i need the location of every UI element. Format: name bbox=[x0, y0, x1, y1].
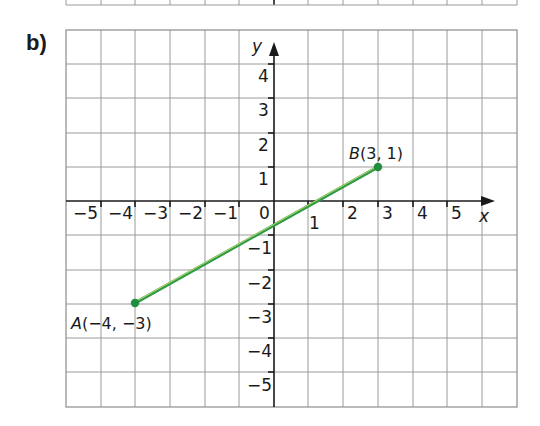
point-a-coords: (−4, −3) bbox=[82, 314, 152, 333]
origin-label: 0 bbox=[259, 203, 270, 223]
y-tick-label: 2 bbox=[258, 135, 269, 155]
y-axis-arrow-icon bbox=[269, 42, 279, 56]
x-tick-label: −5 bbox=[73, 203, 98, 223]
point-a-marker bbox=[131, 299, 139, 307]
x-tick-label: 5 bbox=[451, 203, 462, 223]
x-tick-label: 4 bbox=[417, 203, 428, 223]
y-tick-label: 1 bbox=[258, 169, 269, 189]
previous-grid-fragment bbox=[66, 0, 517, 5]
point-a-label: A(−4, −3) bbox=[70, 314, 152, 333]
x-tick-label: −4 bbox=[108, 203, 133, 223]
y-tick-label: −3 bbox=[247, 307, 272, 327]
grid bbox=[66, 30, 517, 407]
y-tick-label: −2 bbox=[247, 273, 272, 293]
y-tick-label: −1 bbox=[247, 238, 272, 258]
x-tick-label: 3 bbox=[382, 203, 393, 223]
x-tick-label: −3 bbox=[143, 203, 168, 223]
y-tick-label: 3 bbox=[258, 100, 269, 120]
y-axis-name: y bbox=[251, 36, 263, 56]
y-tick-label: −4 bbox=[247, 341, 272, 361]
x-tick-label: −1 bbox=[213, 203, 238, 223]
point-b-label: B(3, 1) bbox=[349, 144, 403, 163]
x-axis-arrow-icon bbox=[481, 196, 495, 206]
part-label: b) bbox=[26, 30, 47, 55]
x-tick-label: −2 bbox=[178, 203, 203, 223]
point-b-coords: (3, 1) bbox=[360, 144, 403, 163]
point-b-name: B bbox=[349, 144, 360, 163]
x-tick-label: 2 bbox=[347, 203, 358, 223]
point-a-name: A bbox=[70, 314, 82, 333]
x-tick-label: 1 bbox=[309, 213, 320, 233]
y-tick-label: −5 bbox=[247, 375, 272, 395]
x-axis-name: x bbox=[478, 206, 490, 226]
y-tick-labels: 4 3 2 1 −1 −2 −3 −4 −5 bbox=[247, 66, 272, 395]
point-b-marker bbox=[374, 163, 382, 171]
y-tick-label: 4 bbox=[258, 66, 269, 86]
coordinate-diagram: b) bbox=[0, 0, 540, 426]
